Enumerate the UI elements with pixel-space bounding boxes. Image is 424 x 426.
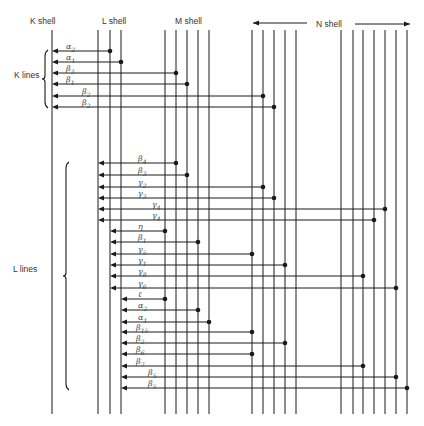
origin-dot-icon [185, 82, 190, 87]
transition-l-24: β6 [121, 345, 254, 357]
transition-l-17: γ8 [110, 267, 365, 279]
arrowhead-icon [121, 319, 127, 324]
origin-dot-icon [207, 320, 212, 325]
transition-k-2: α1 [52, 53, 123, 65]
origin-dot-icon [108, 49, 113, 54]
m-shell-label: M shell [175, 16, 202, 26]
arrowhead-icon [52, 59, 58, 64]
origin-dot-icon [119, 60, 124, 65]
line-label: γ4 [152, 200, 161, 211]
transition-l-25: β7 [121, 357, 365, 369]
transition-l-18: γ6 [110, 279, 398, 291]
origin-dot-icon [174, 161, 179, 166]
arrowhead-icon [98, 206, 104, 211]
line-label: γ5 [138, 245, 147, 256]
line-label: β5 [147, 368, 157, 379]
arrowhead-icon [98, 195, 104, 200]
l-lines-label: L lines [13, 264, 37, 274]
origin-dot-icon [261, 94, 266, 99]
origin-dot-icon [361, 364, 366, 369]
transition-l-13: η [110, 222, 167, 234]
line-label: β5 [147, 379, 157, 390]
line-label: β15 [135, 323, 148, 334]
arrowhead-icon [98, 184, 104, 189]
arrowhead-icon [121, 363, 127, 368]
transition-l-9: γ2 [98, 178, 265, 190]
transition-k-1: α2 [52, 42, 112, 54]
line-label: β1 [137, 233, 146, 244]
origin-dot-icon [250, 352, 255, 357]
transition-l-11: γ4 [98, 200, 387, 212]
arrowhead-icon [98, 172, 104, 177]
arrowhead-icon [121, 329, 127, 334]
origin-dot-icon [283, 341, 288, 346]
arrowhead-icon [121, 385, 127, 390]
n-shell-label: N shell [316, 19, 342, 29]
origin-dot-icon [250, 330, 255, 335]
origin-dot-icon [272, 105, 277, 110]
line-label: β1 [65, 75, 74, 86]
line-label: β2 [81, 87, 91, 98]
transition-k-6: β2 [52, 98, 276, 110]
xray-transition-diagram: K shell L shell M shell N shell K lines … [0, 0, 424, 426]
transition-l-19: ℓ [121, 290, 167, 302]
l-shell-label: L shell [102, 16, 126, 26]
origin-dot-icon [174, 71, 179, 76]
arrowhead-icon [98, 160, 104, 165]
origin-dot-icon [196, 308, 201, 313]
transition-k-5: β2 [52, 87, 265, 99]
origin-dot-icon [250, 252, 255, 257]
transition-l-16: γ1 [110, 256, 287, 268]
line-label: γ3 [138, 189, 147, 200]
brace-k-lines [42, 50, 48, 108]
line-label: η [138, 222, 143, 231]
line-label: γ6 [138, 279, 147, 290]
origin-dot-icon [272, 196, 277, 201]
transition-l-23: β2 [121, 334, 287, 346]
arrowhead-icon [52, 93, 58, 98]
shell-lines [52, 30, 407, 414]
brace-l-lines [63, 162, 69, 390]
arrowhead-icon [121, 296, 127, 301]
transition-k-3: β3 [52, 64, 178, 76]
line-label: ℓ [138, 290, 142, 299]
arrowhead-icon [52, 104, 58, 109]
origin-dot-icon [394, 286, 399, 291]
k-shell-label: K shell [30, 16, 56, 26]
arrowhead-icon [121, 340, 127, 345]
origin-dot-icon [163, 229, 168, 234]
diagram-canvas: K shell L shell M shell N shell K lines … [0, 0, 424, 426]
transition-l-22: β15 [121, 323, 254, 335]
arrowhead-icon [110, 228, 116, 233]
transitions: α2α1β3β1β2β2β4β3γ2γ3γ4γ4ηβ1γ5γ1γ8γ6ℓα2α1… [52, 42, 409, 391]
arrowhead-icon [52, 70, 58, 75]
arrowhead-icon [52, 48, 58, 53]
origin-dot-icon [196, 240, 201, 245]
transition-l-27: β5 [121, 379, 409, 391]
k-lines-label: K lines [14, 70, 40, 80]
line-label: γ8 [138, 267, 147, 278]
line-label: γ1 [138, 256, 147, 267]
line-label: α2 [66, 42, 75, 53]
origin-dot-icon [185, 173, 190, 178]
line-label: β4 [137, 154, 147, 165]
arrowhead-icon [110, 262, 116, 267]
transition-l-15: γ5 [110, 245, 254, 257]
origin-dot-icon [163, 297, 168, 302]
line-label: α1 [138, 313, 147, 324]
line-group-braces: K lines L lines [13, 50, 69, 390]
arrowhead-icon [52, 81, 58, 86]
origin-dot-icon [394, 375, 399, 380]
arrowhead-icon [121, 374, 127, 379]
line-label: β2 [81, 98, 91, 109]
line-label: β3 [137, 166, 147, 177]
transition-l-20: α2 [121, 301, 200, 313]
arrowhead-icon [110, 285, 116, 290]
arrowhead-icon [121, 351, 127, 356]
origin-dot-icon [361, 274, 366, 279]
origin-dot-icon [383, 207, 388, 212]
line-label: α2 [138, 301, 147, 312]
origin-dot-icon [283, 263, 288, 268]
transition-l-26: β5 [121, 368, 398, 380]
line-label: β3 [65, 64, 75, 75]
